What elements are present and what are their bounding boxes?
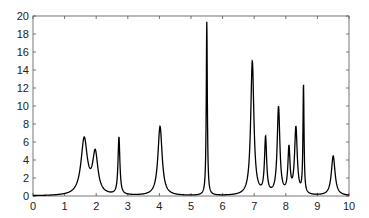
x-tick-label: 9 [314,200,320,212]
y-tick-label: 20 [17,10,29,22]
y-tick-label: 12 [17,82,29,94]
x-tick-label: 3 [125,200,131,212]
y-tick-label: 8 [23,118,29,130]
y-tick-label: 14 [17,64,29,76]
y-tick-label: 4 [23,154,29,166]
spectrum-line [33,22,349,196]
y-tick-label: 2 [23,172,29,184]
x-tick-label: 6 [220,200,226,212]
x-tick-label: 10 [343,200,355,212]
y-tick-label: 16 [17,46,29,58]
y-tick-label: 6 [23,136,29,148]
x-tick-label: 1 [62,200,68,212]
x-tick-label: 4 [156,200,162,212]
x-tick-label: 5 [188,200,194,212]
y-tick-label: 10 [17,100,29,112]
line-chart: 01234567891002468101214161820 [0,0,369,218]
x-tick-label: 8 [283,200,289,212]
x-tick-label: 2 [93,200,99,212]
x-tick-label: 0 [30,200,36,212]
x-tick-label: 7 [251,200,257,212]
y-tick-label: 18 [17,28,29,40]
y-tick-label: 0 [23,190,29,202]
